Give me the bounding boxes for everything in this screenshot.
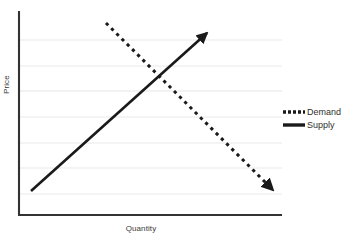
legend-swatch-solid-icon [283, 120, 305, 130]
chart-legend: Demand Supply [283, 106, 355, 132]
legend-item-supply[interactable]: Supply [283, 119, 355, 131]
legend-item-demand[interactable]: Demand [283, 106, 355, 118]
legend-label-supply: Supply [307, 120, 335, 131]
x-axis-label: Quantity [0, 224, 282, 233]
legend-swatch-dotted-icon [283, 107, 305, 117]
supply-demand-chart: Price Quantity Demand Supply [0, 0, 355, 243]
legend-label-demand: Demand [307, 107, 341, 118]
y-axis-label: Price [2, 75, 11, 94]
